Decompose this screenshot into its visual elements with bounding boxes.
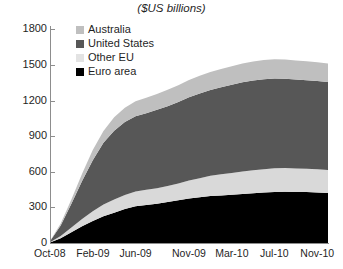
y-tick-label: 1200: [3, 95, 47, 106]
legend-label: Euro area: [88, 66, 136, 77]
y-tick-mark: [51, 29, 55, 30]
x-tick-label: Jun-09: [120, 248, 152, 259]
chart-title: ($US billions): [0, 2, 343, 14]
chart-container: ($US billions) 0300600900120015001800 Oc…: [0, 0, 343, 269]
x-tick-label: Jul-10: [260, 248, 289, 259]
legend-label: Other EU: [88, 52, 134, 63]
x-tick-label: Oct-08: [34, 248, 66, 259]
y-tick-label: 1800: [3, 23, 47, 34]
y-tick-mark: [51, 172, 55, 173]
y-tick-label: 600: [3, 166, 47, 177]
legend-item: Australia: [76, 23, 154, 36]
legend-label: United States: [88, 38, 154, 49]
y-tick-mark: [51, 136, 55, 137]
y-axis-line: [50, 26, 51, 244]
y-tick-mark: [51, 65, 55, 66]
x-axis-line: [50, 243, 329, 244]
x-tick-label: Mar-10: [215, 248, 248, 259]
chart-legend: AustraliaUnited StatesOther EUEuro area: [76, 23, 154, 79]
legend-item: Other EU: [76, 51, 154, 64]
x-tick-label: Feb-09: [76, 248, 109, 259]
y-tick-label: 1500: [3, 59, 47, 70]
legend-item: Euro area: [76, 65, 154, 78]
legend-swatch-icon: [76, 54, 84, 62]
y-tick-mark: [51, 207, 55, 208]
legend-swatch-icon: [76, 26, 84, 34]
x-tick-label: Nov-10: [300, 248, 334, 259]
legend-swatch-icon: [76, 68, 84, 76]
legend-label: Australia: [88, 24, 131, 35]
legend-swatch-icon: [76, 40, 84, 48]
y-tick-label: 900: [3, 130, 47, 141]
x-tick-label: Nov-09: [172, 248, 206, 259]
y-tick-label: 300: [3, 201, 47, 212]
y-axis-labels: 0300600900120015001800: [0, 0, 47, 269]
legend-item: United States: [76, 37, 154, 50]
y-tick-mark: [51, 101, 55, 102]
